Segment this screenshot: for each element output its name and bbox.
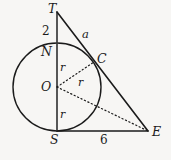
point-label-N: N (41, 46, 52, 59)
point-label-S: S (50, 134, 59, 147)
length-label-SE: 6 (100, 134, 108, 146)
radius-label-OC: r (78, 77, 83, 88)
length-label-TC: a (82, 29, 89, 41)
geometry-figure: T N O S C E 2 6 a r r r (0, 0, 171, 160)
point-label-O: O (41, 81, 51, 94)
point-label-T: T (48, 3, 56, 16)
length-label-TN: 2 (42, 25, 50, 37)
geometry-canvas (0, 0, 171, 160)
radius-label-ON: r (60, 62, 65, 73)
segment-TE (57, 12, 148, 131)
point-label-C: C (97, 53, 107, 66)
radius-label-OS: r (60, 109, 65, 120)
point-label-E: E (152, 126, 161, 139)
segment-OE (57, 87, 148, 131)
